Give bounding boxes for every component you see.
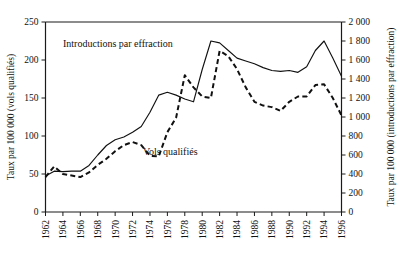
x-tick-label: 1996 <box>337 220 347 239</box>
x-tick-label: 1976 <box>163 220 173 239</box>
y-tick-label-right: 400 <box>349 169 364 179</box>
x-tick-label: 1962 <box>41 220 51 239</box>
line-chart: 050100150200250 02004006008001 0001 2001… <box>0 0 406 269</box>
y-tick-label-left: 50 <box>29 169 39 179</box>
plot-frame <box>46 22 342 212</box>
chart-figure: 050100150200250 02004006008001 0001 2001… <box>0 0 406 269</box>
x-tick-label: 1984 <box>232 220 242 239</box>
y-tick-label-right: 1 200 <box>349 93 371 103</box>
y-tick-label-left: 0 <box>34 207 39 217</box>
y-tick-label-right: 1 000 <box>349 112 371 122</box>
series-annotation-introductions: Introductions par effraction <box>63 38 173 49</box>
y-tick-label-right: 1 400 <box>349 74 371 84</box>
y-tick-label-right: 1 600 <box>349 55 371 65</box>
x-tick-label: 1988 <box>267 220 277 239</box>
x-tick-label: 1974 <box>145 220 155 239</box>
series-line-vols <box>46 51 342 177</box>
x-tick-label: 1990 <box>285 220 295 239</box>
x-tick-label: 1986 <box>250 220 260 239</box>
y-axis-right-ticks: 02004006008001 0001 2001 4001 6001 8002 … <box>342 17 371 217</box>
y-tick-label-right: 2 000 <box>349 17 371 27</box>
x-tick-label: 1978 <box>180 220 190 239</box>
x-tick-label: 1972 <box>128 220 138 239</box>
y-tick-label-left: 200 <box>24 55 39 65</box>
y-tick-label-right: 200 <box>349 188 364 198</box>
y-tick-label-left: 150 <box>24 93 39 103</box>
x-tick-label: 1970 <box>111 220 121 239</box>
y-axis-left-title: Taux par 100 000 (vols qualifiés) <box>6 54 17 180</box>
x-tick-label: 1980 <box>198 220 208 239</box>
x-tick-label: 1964 <box>58 220 68 239</box>
x-tick-label: 1982 <box>215 220 225 239</box>
x-tick-label: 1966 <box>76 220 86 239</box>
x-axis-ticks: 1962196419661968197019721974197619781980… <box>41 212 347 239</box>
series-annotation-vols: Vols qualifiés <box>143 146 198 157</box>
x-tick-label: 1968 <box>93 220 103 239</box>
y-axis-right-title: Taux par 100 000 (introductions par effr… <box>386 27 397 206</box>
x-tick-label: 1994 <box>319 220 329 239</box>
y-tick-label-right: 800 <box>349 131 364 141</box>
y-tick-label-right: 600 <box>349 150 364 160</box>
y-tick-label-left: 100 <box>24 131 39 141</box>
y-tick-label-left: 250 <box>24 17 39 27</box>
x-tick-label: 1992 <box>302 220 312 239</box>
y-tick-label-right: 1 800 <box>349 36 371 46</box>
y-tick-label-right: 0 <box>349 207 354 217</box>
y-axis-left-ticks: 050100150200250 <box>24 17 45 217</box>
